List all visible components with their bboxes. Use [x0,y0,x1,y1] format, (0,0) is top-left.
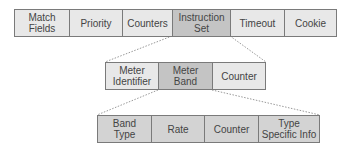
cookie-cell: Cookie [285,10,336,36]
timeout-cell: Timeout [231,10,285,36]
band-counter-cell: Counter [205,116,259,142]
flow-entry-row: Match Fields Priority Counters Instructi… [14,9,337,37]
instruction-set-cell: Instruction Set [173,10,231,36]
counter-cell: Counter [213,63,265,89]
rate-cell: Rate [152,116,205,142]
type-specific-info-cell: Type Specific Info [259,116,319,142]
meter-band-row: Band Type Rate Counter Type Specific Inf… [97,115,320,143]
meter-identifier-cell: Meter Identifier [106,63,159,89]
match-fields-cell: Match Fields [15,10,70,36]
meter-entry-row: Meter Identifier Meter Band Counter [105,62,266,90]
counters-cell: Counters [123,10,173,36]
priority-cell: Priority [70,10,123,36]
meter-band-cell: Meter Band [159,63,213,89]
band-type-cell: Band Type [98,116,152,142]
